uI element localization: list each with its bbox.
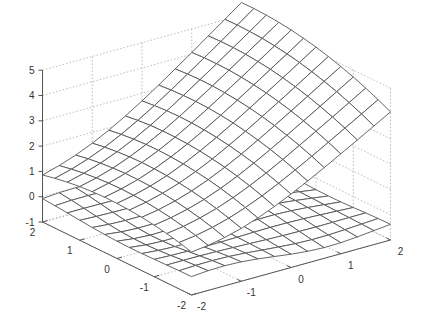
z-tick-label: 4 bbox=[29, 90, 35, 101]
z-tick-label: 3 bbox=[29, 115, 35, 126]
y-tick-label: 0 bbox=[104, 264, 110, 275]
y-tick-label: -1 bbox=[140, 282, 149, 293]
y-tick-label: 1 bbox=[67, 245, 73, 256]
z-tick-label: 2 bbox=[29, 141, 35, 152]
x-tick-label: 1 bbox=[348, 260, 354, 271]
x-tick-label: 0 bbox=[298, 274, 304, 285]
x-tick-label: -2 bbox=[197, 301, 206, 312]
z-tick-label: -1 bbox=[26, 217, 35, 228]
z-tick-label: 0 bbox=[29, 191, 35, 202]
surface-plot: -1012345-2-1012-2-1012 bbox=[0, 0, 425, 333]
y-tick-label: -2 bbox=[177, 300, 186, 311]
z-tick-label: 5 bbox=[29, 65, 35, 76]
y-tick-label: 2 bbox=[30, 227, 36, 238]
x-tick-label: -1 bbox=[247, 287, 256, 298]
surface-mesh bbox=[43, 3, 391, 277]
x-tick-label: 2 bbox=[398, 246, 404, 257]
z-tick-label: 1 bbox=[29, 166, 35, 177]
